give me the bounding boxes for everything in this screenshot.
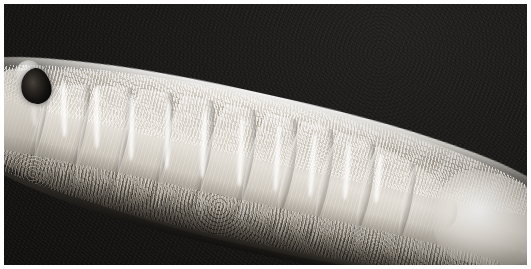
- annulation-band: [272, 124, 283, 192]
- annulation-band: [60, 79, 69, 137]
- frame-edge-left: [0, 0, 4, 269]
- annulation-band: [163, 101, 172, 169]
- frame-edge-bottom: [0, 265, 531, 269]
- annulation-band: [236, 116, 246, 186]
- annulation-band: [93, 87, 101, 149]
- micrograph-figure: Black and white scanning electron microg…: [0, 0, 531, 269]
- annulation-band: [306, 133, 318, 197]
- micrograph-plate: [4, 4, 527, 265]
- specimen: [4, 28, 527, 265]
- annulation-band: [128, 94, 136, 160]
- frame-edge-right: [527, 0, 531, 269]
- frame-edge-top: [0, 0, 531, 4]
- annulation-band: [341, 142, 353, 200]
- annulation-band: [372, 153, 384, 203]
- annulation-band: [199, 108, 209, 178]
